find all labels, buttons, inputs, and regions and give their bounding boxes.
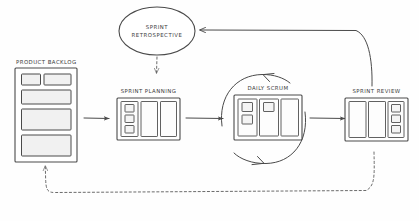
backlog-card-5 [22,135,72,156]
daily-scrum-label: DAILY SCRUM [247,85,288,92]
daily-scrum-note-3 [264,103,275,112]
sprint-planning-note-2 [125,115,134,123]
sprint-review-column-1 [349,102,366,138]
sprint-review-label: SPRINT REVIEW [352,88,400,95]
sprint-planning-note-1 [125,105,134,113]
sprint-planning-label: SPRINT PLANNING [121,88,177,95]
sprint-planning-note-3 [125,126,134,134]
product-backlog-label: PRODUCT BACKLOG [16,59,77,66]
scrum-diagram-canvas: PRODUCT BACKLOG SPRINT PLANNING DAILY SC… [0,0,419,221]
sprint-retrospective-label-line-2: RETROSPECTIVE [112,32,202,40]
backlog-card-1 [22,74,41,85]
backlog-card-2 [44,74,71,85]
sprint-retrospective-label-line-1: SPRINT [112,24,202,32]
node-product-backlog[interactable] [15,68,77,162]
daily-scrum-note-2 [242,115,253,124]
sprint-review-note-1 [392,105,401,113]
sprint-review-note-2 [392,115,401,123]
backlog-card-4 [22,109,72,130]
node-daily-scrum[interactable] [234,95,302,140]
sprint-planning-column-3 [161,102,177,137]
node-sprint-planning[interactable] [117,98,180,140]
daily-scrum-note-1 [242,103,253,112]
sprint-review-column-2 [369,102,386,138]
sprint-planning-column-2 [141,102,158,137]
daily-scrum-column-3 [281,99,299,136]
shape-layer [0,0,419,221]
backlog-card-3 [22,90,72,104]
sprint-review-note-3 [392,126,401,134]
sprint-retrospective-label: SPRINT RETROSPECTIVE [112,24,202,39]
node-sprint-review[interactable] [345,98,408,141]
